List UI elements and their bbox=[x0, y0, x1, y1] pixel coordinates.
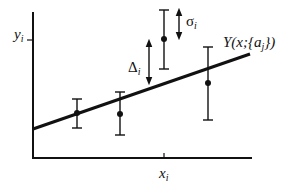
fit-curve-label: Y(x;{aj}) bbox=[223, 34, 275, 52]
data-dot bbox=[161, 36, 167, 42]
y-axis-label: yi bbox=[12, 26, 24, 44]
data-point-4 bbox=[203, 47, 213, 120]
delta-label: Δi bbox=[128, 59, 141, 77]
axes bbox=[27, 12, 252, 159]
x-axis-label: xi bbox=[158, 165, 169, 183]
data-dot bbox=[117, 111, 123, 117]
fit-line bbox=[33, 54, 250, 129]
least-squares-diagram: yi xi Y(x;{aj}) Δi σi bbox=[0, 0, 298, 189]
data-point-3 bbox=[159, 10, 169, 69]
data-dot bbox=[205, 80, 211, 86]
data-dot bbox=[74, 110, 80, 116]
sigma-label: σi bbox=[186, 13, 197, 31]
